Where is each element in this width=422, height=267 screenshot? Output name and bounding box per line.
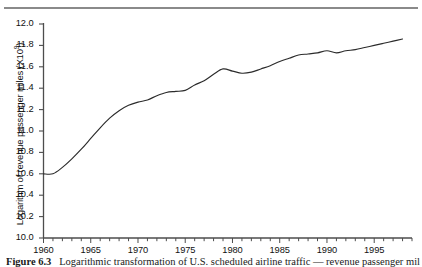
y-axis-tick-label: 10.8 xyxy=(2,146,34,156)
y-axis-tick-label: 11.8 xyxy=(2,39,34,49)
x-axis-tick-label: 1965 xyxy=(71,245,111,255)
y-axis-tick-label: 11.4 xyxy=(2,82,34,92)
y-axis-tick-label: 11.6 xyxy=(2,61,34,71)
figure-container: Logarithm of revenue passenger miles (X1… xyxy=(0,0,422,267)
figure-caption-text: Logarithmic transformation of U.S. sched… xyxy=(59,256,420,267)
y-axis-tick-label: 10.4 xyxy=(2,189,34,199)
figure-caption: Figure 6.3 Logarithmic transformation of… xyxy=(6,256,420,267)
x-axis-tick-label: 1990 xyxy=(307,245,347,255)
x-axis-tick-label: 1960 xyxy=(24,245,64,255)
x-axis-tick-label: 1980 xyxy=(212,245,252,255)
y-axis-tick-label: 11.0 xyxy=(2,125,34,135)
x-axis-tick-label: 1995 xyxy=(354,245,394,255)
data-series-line xyxy=(44,39,403,174)
x-axis-tick-label: 1985 xyxy=(260,245,300,255)
y-axis-tick-label: 10.2 xyxy=(2,211,34,221)
y-axis-tick-label: 10.0 xyxy=(2,232,34,242)
y-axis-tick-label: 11.2 xyxy=(2,104,34,114)
x-axis-tick-label: 1970 xyxy=(118,245,158,255)
line-chart-svg xyxy=(0,0,422,267)
y-axis-tick-label: 10.6 xyxy=(2,168,34,178)
chart-plot-area: Logarithm of revenue passenger miles (X1… xyxy=(0,0,422,267)
figure-caption-label: Figure 6.3 xyxy=(6,256,51,267)
x-axis-tick-label: 1975 xyxy=(165,245,205,255)
axis-lines xyxy=(44,23,413,238)
y-axis-tick-label: 12.0 xyxy=(2,18,34,28)
